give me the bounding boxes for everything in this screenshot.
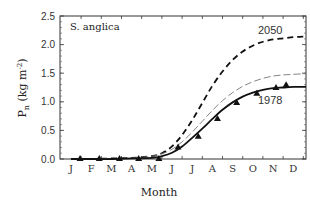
x-tick-label: D [289,163,297,174]
y-tick-label: 2.0 [41,39,55,50]
species-label: S. anglica [70,21,120,32]
svg-text:Pn (kg m-2): Pn (kg m-2) [16,58,31,117]
x-axis-title: Month [141,186,177,199]
x-tick-label: A [127,163,136,174]
x-tick-label: N [269,163,278,174]
series-line [71,74,306,159]
x-tick-label: A [208,163,217,174]
annotation-1978: 1978 [258,94,282,106]
x-tick-label: F [88,163,95,174]
x-tick-label: O [249,163,257,174]
y-tick-label: 0.5 [41,125,55,136]
x-tick-label: M [147,163,157,174]
annotation-2050: 2050 [258,24,282,36]
y-tick-label: 1.0 [41,96,55,107]
y-tick-label: 1.5 [41,68,55,79]
x-tick-label: J [68,163,73,174]
chart-canvas: 0.00.51.01.52.02.5 JFMAMJJASOND S. angli… [0,0,310,202]
y-tick-label: 2.5 [41,11,55,22]
triangle-marker [77,155,84,161]
y-axis-title: Pn (kg m-2) [16,58,31,117]
triangle-marker [283,81,290,87]
plot-frame [60,16,306,159]
x-tick-label: M [106,163,116,174]
x-tick-label: S [229,163,236,174]
x-tick-label: J [169,163,174,174]
y-tick-label: 0.0 [41,154,55,165]
x-tick-label: J [189,163,194,174]
